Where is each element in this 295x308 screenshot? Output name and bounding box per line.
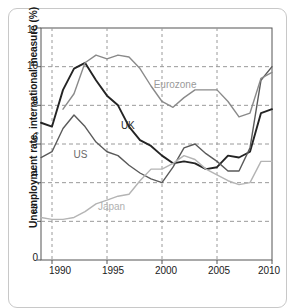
- series-label-japan: Japan: [98, 202, 125, 212]
- series-label-eurozone: Eurozone: [154, 80, 197, 90]
- series-label-us: US: [74, 150, 88, 160]
- series-label-uk: UK: [121, 121, 135, 131]
